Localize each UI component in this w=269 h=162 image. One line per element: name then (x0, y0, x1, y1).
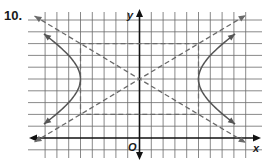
x-axis-label: x (252, 142, 260, 154)
hyperbola-graph: x y O (0, 0, 269, 162)
origin-label: O (128, 141, 137, 153)
y-axis-label: y (126, 9, 134, 21)
